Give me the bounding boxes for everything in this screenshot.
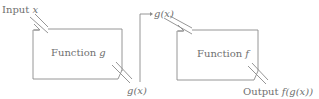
function-f-label: Function f [197, 49, 249, 59]
connector-arrow [140, 12, 153, 82]
f-input-label: g(x) [154, 9, 174, 19]
function-g-label: Function g [51, 48, 106, 58]
input-x-label: Input x [2, 5, 38, 15]
g-output-label: g(x) [127, 86, 147, 96]
output-label: Output f(g(x)) [243, 87, 313, 97]
